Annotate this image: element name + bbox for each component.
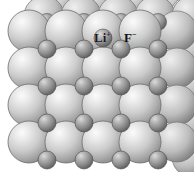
cation-charge: + — [106, 30, 111, 39]
anion-label: F− — [124, 31, 137, 44]
cation-label: Li+ — [94, 31, 111, 44]
crystal-lattice-figure: Li+ F− — [0, 0, 194, 172]
anion-symbol: F — [124, 30, 132, 45]
anion-charge: − — [132, 30, 137, 39]
cation-symbol: Li — [94, 30, 106, 45]
lattice-diagram — [0, 0, 194, 172]
